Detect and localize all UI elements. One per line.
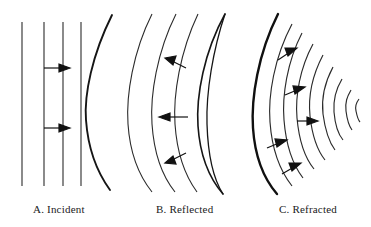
panel-caption-incident: A. Incident bbox=[33, 203, 85, 215]
wavefront-arc-7 bbox=[346, 90, 352, 130]
arrow-right-2 bbox=[44, 124, 70, 132]
wavefront-arc-5 bbox=[322, 67, 335, 150]
wavefront-arc-1 bbox=[128, 14, 152, 192]
panel-c-arrows bbox=[267, 48, 318, 174]
arrow-converge-3 bbox=[297, 117, 318, 125]
wavefront-arc-3 bbox=[175, 14, 198, 192]
panel-caption-refracted: C. Refracted bbox=[279, 203, 337, 215]
wave-diagram-canvas bbox=[0, 0, 371, 227]
panel-a-incident bbox=[22, 15, 112, 190]
arrow-converge-4 bbox=[267, 139, 287, 148]
panel-c-wavefronts bbox=[270, 24, 360, 186]
panel-b-wavefronts bbox=[128, 14, 198, 192]
panel-c-refracted bbox=[253, 14, 360, 194]
panel-b-barrier-inner bbox=[207, 14, 225, 194]
arrow-converge-5 bbox=[282, 163, 301, 174]
panel-caption-reflected: B. Reflected bbox=[156, 203, 213, 215]
wavefront-arc-6 bbox=[334, 79, 343, 140]
panel-b-arrows bbox=[159, 56, 188, 164]
panel-a-arrows bbox=[44, 64, 70, 132]
arrow-right-1 bbox=[44, 64, 70, 72]
panel-b-barrier-outer bbox=[198, 14, 225, 194]
panel-c-barrier-arc bbox=[253, 14, 278, 194]
arrow-left-3 bbox=[165, 153, 186, 164]
arrow-converge-2 bbox=[285, 86, 305, 95]
wave-diagram-figure: A. Incident B. Reflected C. Refracted bbox=[0, 0, 371, 227]
wavefront-arc-8 bbox=[356, 99, 360, 122]
panel-a-barrier-curve bbox=[86, 15, 112, 190]
panel-a-wavefronts bbox=[22, 22, 81, 186]
wavefront-arc-2 bbox=[152, 14, 176, 192]
wavefront-arc-3 bbox=[297, 44, 314, 169]
arrow-left-2 bbox=[159, 113, 188, 121]
panel-b-reflected bbox=[128, 14, 225, 194]
